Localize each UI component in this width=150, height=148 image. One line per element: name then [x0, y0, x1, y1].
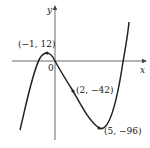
max-point-label: (−1, 12) [18, 39, 55, 49]
inflection-point-label: (2, −42) [76, 85, 113, 95]
local-max-point [45, 51, 48, 54]
min-point-label: (5, −96) [104, 126, 141, 136]
local-min-point [97, 126, 100, 129]
x-axis-label: x [140, 65, 145, 75]
y-axis-label: y [46, 5, 53, 15]
inflection-point [71, 89, 74, 92]
function-graph: y x 0 (−1, 12) (2, −42) (5, −96) [0, 0, 150, 148]
origin-label: 0 [48, 63, 54, 73]
